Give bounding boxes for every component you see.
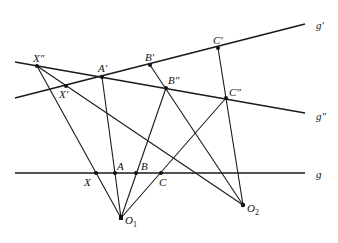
label-b-prime: B′ bbox=[145, 51, 155, 63]
label-g-double-prime: g″ bbox=[316, 110, 327, 122]
label-o2: O2 bbox=[247, 202, 259, 217]
ray-o1-a-prime bbox=[102, 77, 121, 218]
label-c-double-prime: C″ bbox=[229, 86, 241, 98]
diagram-canvas: g′ g″ g X″ A′ X′ B′ B″ C′ C″ X A B C O1 … bbox=[0, 0, 338, 243]
point-c-double-prime bbox=[224, 96, 228, 100]
label-a-prime: A′ bbox=[97, 62, 108, 74]
point-c bbox=[159, 171, 163, 175]
label-o1: O1 bbox=[125, 214, 137, 229]
label-g-prime: g′ bbox=[316, 19, 325, 31]
ray-o1-b-double-prime bbox=[121, 88, 166, 218]
label-g: g bbox=[316, 168, 322, 180]
point-b-prime bbox=[148, 63, 152, 67]
label-x: X bbox=[83, 176, 92, 188]
label-c-prime: C′ bbox=[213, 34, 223, 46]
ray-o2-c-prime bbox=[218, 48, 243, 205]
label-b: B bbox=[141, 160, 148, 172]
projective-geometry-diagram: g′ g″ g X″ A′ X′ B′ B″ C′ C″ X A B C O1 … bbox=[0, 0, 338, 243]
label-a: A bbox=[116, 160, 124, 172]
point-o1 bbox=[119, 215, 123, 220]
label-b-double-prime: B″ bbox=[168, 74, 180, 86]
label-c: C bbox=[159, 176, 167, 188]
point-x-double-prime bbox=[35, 64, 39, 68]
point-x bbox=[94, 171, 98, 175]
point-b-double-prime bbox=[164, 86, 168, 90]
point-c-prime bbox=[216, 46, 220, 50]
ray-o2-x-double-prime bbox=[37, 66, 243, 205]
label-x-prime: X′ bbox=[58, 88, 69, 100]
label-x-double-prime: X″ bbox=[32, 52, 45, 64]
point-b bbox=[134, 171, 138, 175]
point-o2 bbox=[241, 203, 245, 207]
ray-o1-x-double-prime bbox=[37, 66, 121, 218]
point-a-prime bbox=[100, 75, 104, 79]
